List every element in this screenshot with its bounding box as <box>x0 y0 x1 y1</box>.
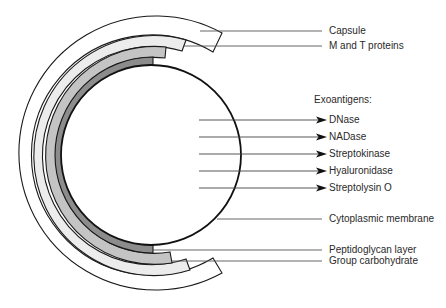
capsule-label: Capsule <box>329 25 366 37</box>
exoantigen-nadase: NADase <box>329 131 366 143</box>
exoantigen-streptokinase: Streptokinase <box>329 148 390 160</box>
m-t-proteins-label: M and T proteins <box>329 40 404 52</box>
exoantigen-streptolysin-o: Streptolysin O <box>329 182 392 194</box>
exoantigen-hyaluronidase: Hyaluronidase <box>329 165 393 177</box>
exoantigen-dnase: DNase <box>329 114 360 126</box>
exoantigens-heading: Exoantigens: <box>314 94 372 106</box>
group-carbohydrate-label: Group carbohydrate <box>329 255 418 267</box>
cytoplasmic-membrane-label: Cytoplasmic membrane <box>329 213 434 225</box>
cytoplasmic-membrane-circle <box>61 65 241 245</box>
